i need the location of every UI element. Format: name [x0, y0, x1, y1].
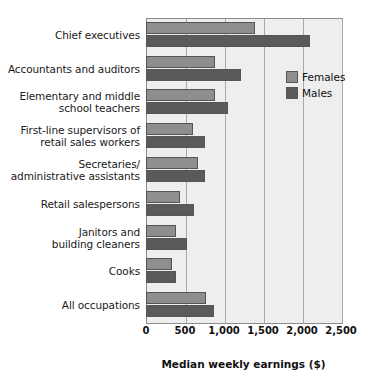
bar-group [146, 22, 341, 48]
bar-group [146, 123, 341, 149]
y-axis-label-line: Retail salespersons [0, 198, 140, 210]
legend-item: Females [286, 71, 345, 83]
y-axis-label: First-line supervisors ofretail sales wo… [0, 124, 140, 148]
x-axis-tick-labels: 05001,0001,5002,0002,500 [146, 325, 341, 341]
y-axis-label-line: retail sales workers [0, 136, 140, 148]
x-tick-label: 2,500 [325, 325, 357, 336]
bar-females [146, 191, 180, 203]
y-axis-label-line: school teachers [0, 102, 140, 114]
y-axis-label: Janitors andbuilding cleaners [0, 226, 140, 250]
x-tick-label: 2,000 [286, 325, 318, 336]
gridline-2500 [342, 19, 343, 323]
bar-males [146, 69, 241, 81]
y-axis-category-labels: Chief executivesAccountants and auditors… [0, 18, 140, 322]
x-tick-label: 1,000 [208, 325, 240, 336]
bar-group [146, 225, 341, 251]
y-axis-label-line: building cleaners [0, 238, 140, 250]
bar-males [146, 35, 310, 47]
bar-males [146, 204, 194, 216]
y-axis-label-line: All occupations [0, 299, 140, 311]
bar-group [146, 258, 341, 284]
bar-females [146, 157, 198, 169]
legend-label: Males [302, 87, 332, 99]
bar-males [146, 170, 205, 182]
x-tick-label: 0 [143, 325, 150, 336]
y-axis-label-line: Janitors and [0, 226, 140, 238]
y-axis-label: Secretaries/administrative assistants [0, 158, 140, 182]
y-axis-label: Cooks [0, 265, 140, 277]
y-axis-label-line: Cooks [0, 265, 140, 277]
y-axis-label: Elementary and middleschool teachers [0, 90, 140, 114]
legend-swatch-females [286, 71, 298, 83]
x-axis-title: Median weekly earnings ($) [146, 358, 341, 370]
chart-legend: FemalesMales [286, 71, 345, 99]
y-axis-label: All occupations [0, 299, 140, 311]
legend-label: Females [302, 71, 345, 83]
y-axis-label-line: Accountants and auditors [0, 63, 140, 75]
x-tick-label: 500 [175, 325, 196, 336]
bar-males [146, 305, 214, 317]
y-axis-label: Retail salespersons [0, 198, 140, 210]
bar-males [146, 238, 187, 250]
y-axis-label: Accountants and auditors [0, 63, 140, 75]
bar-females [146, 292, 206, 304]
bar-females [146, 56, 215, 68]
bar-group [146, 292, 341, 318]
bar-females [146, 123, 193, 135]
bar-females [146, 22, 255, 34]
y-axis-label-line: administrative assistants [0, 170, 140, 182]
bar-group [146, 157, 341, 183]
bar-females [146, 89, 215, 101]
bar-males [146, 271, 176, 283]
bar-females [146, 225, 176, 237]
bar-females [146, 258, 172, 270]
bars-layer [146, 18, 341, 322]
bar-males [146, 102, 228, 114]
y-axis-label-line: Chief executives [0, 29, 140, 41]
x-tick-label: 1,500 [247, 325, 279, 336]
y-axis-label: Chief executives [0, 29, 140, 41]
bar-chart: Chief executivesAccountants and auditors… [0, 0, 374, 385]
y-axis-label-line: Elementary and middle [0, 90, 140, 102]
y-axis-label-line: Secretaries/ [0, 158, 140, 170]
legend-swatch-males [286, 87, 298, 99]
y-axis-label-line: First-line supervisors of [0, 124, 140, 136]
legend-item: Males [286, 87, 345, 99]
bar-group [146, 191, 341, 217]
bar-males [146, 136, 205, 148]
